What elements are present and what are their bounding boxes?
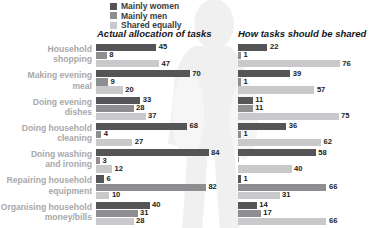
bar-value-label: 11 [255, 104, 263, 112]
bar-mainly-women [238, 202, 257, 209]
bar-value-label: 6 [107, 175, 111, 183]
bar-shared-equally [238, 192, 280, 199]
bar-mainly-men [238, 157, 239, 162]
bar-shared-equally [238, 86, 314, 93]
bar-value-label: 27 [135, 138, 143, 146]
bar-shared-equally [96, 218, 134, 225]
bar-line-mainly-women: 40 [96, 202, 230, 209]
bar-shared-equally [96, 165, 112, 172]
bar-mainly-men [96, 157, 100, 164]
bar-line-mainly-women: 84 [96, 149, 230, 156]
bar-mainly-men [96, 131, 101, 138]
bar-mainly-women [96, 175, 104, 182]
chart-row: Household shopping4584722176 [0, 43, 376, 69]
panel-should-row: 36162 [238, 123, 372, 147]
bar-line-shared-equally: 12 [96, 165, 230, 172]
panel-title-should: How tasks should be shared [238, 28, 366, 39]
bar-line-shared-equally: 37 [96, 113, 230, 120]
bar-line-shared-equally: 10 [96, 192, 230, 199]
bar-value-label: 62 [324, 138, 332, 146]
bar-mainly-men [96, 78, 108, 85]
bar-line-mainly-men: 4 [96, 131, 230, 138]
legend: Mainly women Mainly men Shared equally [110, 2, 181, 31]
grouped-bar-chart: Mainly women Mainly men Shared equally A… [0, 0, 376, 228]
bar-shared-equally [96, 113, 146, 120]
bar-line-mainly-women: 14 [238, 202, 372, 209]
row-category-label: Doing household cleaning [0, 122, 92, 143]
bar-shared-equally [238, 165, 292, 172]
bar-value-label: 70 [192, 70, 200, 78]
bar-value-label: 66 [329, 183, 337, 191]
chart-row: Making evening meal7092039157 [0, 69, 376, 95]
bar-line-mainly-men [238, 157, 372, 164]
panel-should-row: 16631 [238, 175, 372, 199]
bar-mainly-women [96, 44, 156, 51]
bar-line-shared-equally: 20 [96, 86, 230, 93]
bar-line-mainly-men: 66 [238, 184, 372, 191]
bar-line-mainly-women: 39 [238, 70, 372, 77]
bar-line-shared-equally: 75 [238, 113, 372, 120]
bar-value-label: 28 [136, 104, 144, 112]
bar-value-label: 68 [190, 122, 198, 130]
bar-value-label: 39 [293, 70, 301, 78]
panel-should-row: 111175 [238, 97, 372, 121]
bar-value-label: 1 [244, 78, 248, 86]
panel-should-row: 22176 [238, 44, 372, 68]
bar-mainly-men [238, 210, 261, 217]
bar-line-mainly-women: 1 [238, 175, 372, 182]
bar-value-label: 37 [148, 112, 156, 120]
bar-value-label: 47 [161, 60, 169, 68]
bar-value-label: 3 [103, 157, 107, 165]
bar-shared-equally [238, 113, 339, 120]
chart-row: Organising household money/bills40312814… [0, 201, 376, 227]
panel-actual-row: 70920 [96, 70, 230, 94]
bar-value-label: 58 [318, 149, 326, 157]
bar-mainly-men [96, 105, 134, 112]
bar-value-label: 45 [159, 43, 167, 51]
chart-row: Doing evening dishes332837111175 [0, 96, 376, 122]
bar-value-label: 76 [342, 60, 350, 68]
bar-value-label: 31 [282, 191, 290, 199]
legend-swatch-mainly-women [110, 3, 117, 10]
bar-mainly-men [238, 131, 241, 138]
bar-mainly-women [238, 97, 253, 104]
chart-row: Repairing household equipment6821016631 [0, 174, 376, 200]
bar-value-label: 75 [341, 112, 349, 120]
panel-should-row: 141766 [238, 202, 372, 226]
bar-value-label: 17 [263, 209, 271, 217]
bar-line-mainly-men: 31 [96, 210, 230, 217]
bar-value-label: 20 [125, 86, 133, 94]
panel-actual-row: 403128 [96, 202, 230, 226]
bar-mainly-men [96, 52, 107, 59]
row-category-label: Doing evening dishes [0, 96, 92, 117]
bar-line-shared-equally: 62 [238, 139, 372, 146]
bar-line-mainly-men: 1 [238, 131, 372, 138]
bar-line-shared-equally: 47 [96, 60, 230, 67]
bar-shared-equally [238, 60, 340, 67]
chart-rows: Household shopping4584722176Making eveni… [0, 43, 376, 227]
legend-label-mainly-women: Mainly women [121, 2, 179, 10]
bar-value-label: 1 [244, 175, 248, 183]
bar-line-mainly-women: 68 [96, 123, 230, 130]
bar-line-shared-equally: 40 [238, 165, 372, 172]
bar-mainly-men [238, 105, 253, 112]
bar-value-label: 9 [111, 78, 115, 86]
panel-should-row: 5840 [238, 149, 372, 173]
bar-mainly-women [238, 44, 267, 51]
bar-mainly-men [96, 210, 138, 217]
bar-value-label: 1 [244, 51, 248, 59]
legend-item-mainly-women: Mainly women [110, 2, 181, 10]
row-category-label: Repairing household equipment [0, 174, 92, 195]
bar-value-label: 40 [294, 165, 302, 173]
bar-value-label: 57 [317, 86, 325, 94]
bar-value-label: 1 [244, 130, 248, 138]
bar-line-shared-equally: 76 [238, 60, 372, 67]
bar-value-label: 12 [115, 165, 123, 173]
bar-line-mainly-men: 1 [238, 52, 372, 59]
bar-shared-equally [96, 139, 132, 146]
chart-row: Doing household cleaning6842736162 [0, 122, 376, 148]
bar-mainly-women [96, 123, 187, 130]
bar-mainly-women [96, 149, 209, 156]
bar-line-mainly-men: 17 [238, 210, 372, 217]
panel-actual-row: 84312 [96, 149, 230, 173]
